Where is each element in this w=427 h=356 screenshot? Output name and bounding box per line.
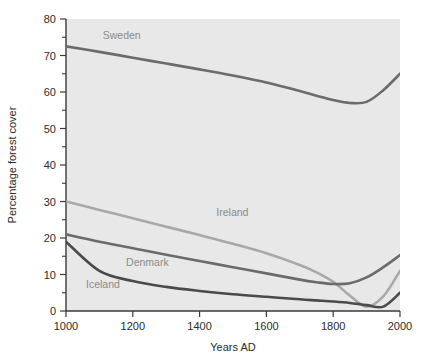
series-label-denmark: Denmark: [126, 256, 169, 268]
y-tick-label: 40: [44, 159, 56, 171]
y-axis-tick-labels: 01020304050607080: [44, 13, 56, 317]
x-tick-label: 2000: [388, 320, 412, 332]
chart-container: 01020304050607080 1000120014001600180020…: [0, 0, 427, 356]
y-axis-title: Percentage forest cover: [6, 106, 18, 223]
y-tick-label: 30: [44, 196, 56, 208]
y-tick-label: 20: [44, 232, 56, 244]
x-axis-title: Years AD: [210, 341, 256, 353]
series-label-sweden: Sweden: [103, 29, 141, 41]
y-tick-label: 50: [44, 123, 56, 135]
x-tick-label: 1000: [54, 320, 78, 332]
x-tick-label: 1600: [254, 320, 278, 332]
x-tick-label: 1400: [187, 320, 211, 332]
y-tick-label: 10: [44, 269, 56, 281]
y-tick-label: 60: [44, 86, 56, 98]
series-label-ireland: Ireland: [216, 206, 248, 218]
y-tick-label: 80: [44, 13, 56, 25]
series-label-iceland: Iceland: [86, 278, 120, 290]
x-tick-label: 1200: [121, 320, 145, 332]
forest-cover-line-chart: 01020304050607080 1000120014001600180020…: [0, 0, 427, 356]
x-tick-label: 1800: [321, 320, 345, 332]
y-tick-label: 0: [50, 305, 56, 317]
y-tick-label: 70: [44, 50, 56, 62]
